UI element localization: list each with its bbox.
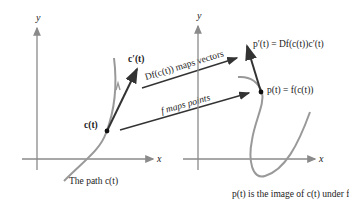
left-y-label: y — [35, 12, 41, 23]
path-direction-icon — [116, 83, 120, 90]
point-c — [105, 129, 110, 134]
tangent-label-p: p′(t) = Df(c(t))c′(t) — [253, 39, 324, 50]
right-caption: p(t) is the image of c(t) under f — [232, 189, 349, 200]
point-label-c: c(t) — [84, 120, 98, 131]
point-p — [259, 90, 264, 95]
points-map-label: f maps points — [160, 92, 212, 116]
tangent-vector-c — [107, 69, 137, 131]
left-caption: The path c(t) — [69, 176, 118, 187]
right-x-label: x — [318, 153, 324, 164]
diagram-canvas: y x c′(t) c(t) The path c(t) Df(c(t)) ma… — [0, 0, 349, 205]
tangent-label-c: c′(t) — [128, 54, 144, 65]
tangent-vector-p — [247, 46, 261, 92]
left-x-label: x — [156, 153, 162, 164]
left-plot: y x c′(t) c(t) The path c(t) — [22, 12, 162, 187]
point-label-p: p(t) = f(c(t)) — [267, 85, 314, 96]
right-y-label: y — [196, 10, 202, 21]
